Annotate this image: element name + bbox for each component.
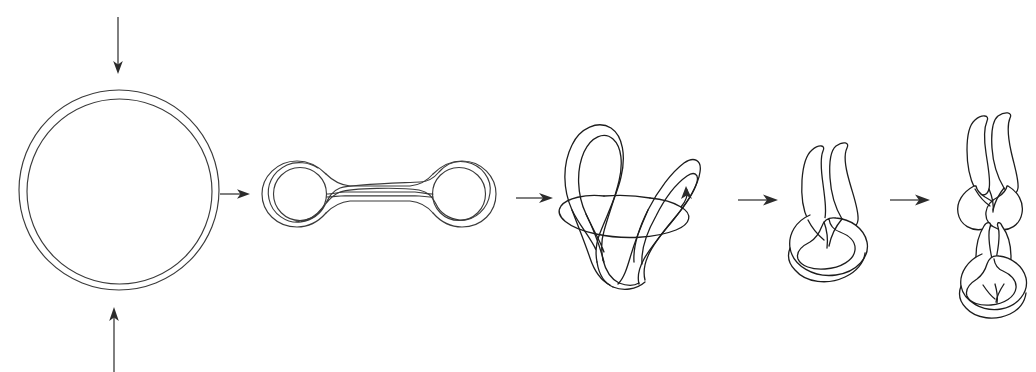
- bottom-crossing-b: [619, 283, 639, 285]
- transition-arrow-3: [738, 195, 778, 206]
- supercoil-tube-right: [830, 143, 858, 227]
- dumbbell-left-lobe-outer: [262, 161, 326, 227]
- outer-circle-strand: [19, 90, 219, 290]
- dumbbell-right-lobe-inner: [433, 168, 486, 221]
- transition-arrow-2: [516, 193, 553, 203]
- transition-arrow-4: [890, 195, 930, 206]
- lower-basal-ring: [961, 254, 1027, 310]
- stage-1-relaxed-circle: [19, 90, 219, 290]
- upper-tube-left: [967, 116, 990, 195]
- connector-bottom-outer: [326, 201, 433, 213]
- stage-2-collapsed-dumbbell: [262, 161, 496, 227]
- inner-circle-strand: [27, 99, 212, 284]
- connector-center-upper: [327, 192, 434, 194]
- rotation-sweep-front: [559, 195, 689, 237]
- supercoil-tube-left: [802, 146, 826, 227]
- figure-canvas: [0, 0, 1036, 372]
- transition-arrow-1: [220, 189, 250, 199]
- compression-arrow-top: [113, 17, 123, 74]
- compression-arrow-bottom: [109, 307, 119, 372]
- stage-5-double-supercoil: [958, 113, 1027, 318]
- connector-center-lower: [327, 196, 434, 197]
- supercoiling-figure: [0, 0, 1036, 372]
- left-loop-inner: [579, 135, 622, 260]
- dumbbell-right-lobe-outer: [433, 161, 496, 227]
- left-loop-stem-inner: [603, 260, 619, 283]
- left-loop-outer: [565, 125, 623, 262]
- right-loop-outer: [634, 160, 700, 284]
- right-loop-inner: [642, 174, 698, 280]
- stage-4-single-supercoil: [789, 143, 868, 282]
- dumbbell-left-lobe-inner: [274, 168, 327, 221]
- upper-tube-right: [992, 113, 1018, 194]
- rotation-sweep-back: [604, 195, 650, 198]
- stage-3-folding-loops: [559, 125, 700, 289]
